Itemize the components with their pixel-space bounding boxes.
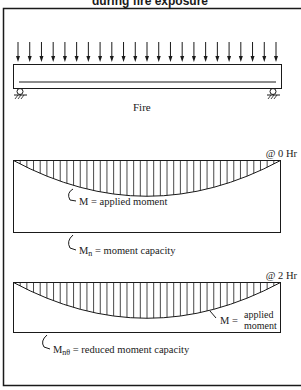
time-label-2hr: @ 2 Hr xyxy=(266,270,298,281)
moment-diagram-2hr: @ 2 Hr M = applied moment Mnθ = reduced … xyxy=(14,270,298,357)
applied-moment-label-0hr: M = applied moment xyxy=(79,196,168,207)
fire-moment-diagram: during fire exposure Fire @ 0 Hr M = app… xyxy=(0,0,301,390)
reduced-capacity-pointer xyxy=(43,335,50,349)
applied-label-line1-2hr: applied xyxy=(244,309,273,320)
applied-moment-pointer xyxy=(69,189,76,201)
applied-label-line2-2hr: moment xyxy=(244,320,277,331)
applied-moment-prefix-2hr: M = xyxy=(220,315,238,326)
load-arrows xyxy=(16,42,278,62)
applied-moment-hatch-0hr xyxy=(20,161,274,197)
fire-label: Fire xyxy=(133,101,151,113)
moment-capacity-label-0hr: Mn = moment capacity xyxy=(79,245,176,258)
reduced-capacity-label-2hr: Mnθ = reduced moment capacity xyxy=(53,344,190,357)
diagram-title: during fire exposure xyxy=(92,0,208,8)
applied-moment-hatch-2hr xyxy=(20,283,274,319)
time-label-0hr: @ 0 Hr xyxy=(266,148,298,159)
beam xyxy=(14,65,282,89)
right-support-icon xyxy=(267,89,280,100)
left-support-icon xyxy=(14,89,27,100)
moment-capacity-pointer xyxy=(69,235,76,250)
moment-diagram-0hr: @ 0 Hr M = applied moment Mn = moment ca… xyxy=(14,148,298,258)
applied-moment-pointer-2hr xyxy=(210,311,216,318)
